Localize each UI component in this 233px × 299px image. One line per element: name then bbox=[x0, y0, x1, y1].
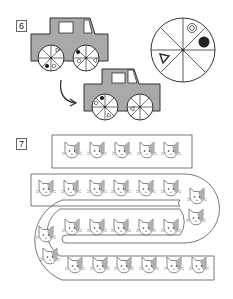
filled-circle-icon bbox=[100, 96, 104, 100]
reference-wheel bbox=[151, 18, 215, 82]
filled-circle-icon bbox=[45, 64, 49, 68]
filled-circle-icon bbox=[76, 50, 80, 54]
curved-arrow-icon bbox=[61, 80, 75, 103]
car-1 bbox=[31, 18, 108, 71]
filled-circle-icon bbox=[199, 37, 210, 48]
car-2 bbox=[84, 69, 160, 120]
puzzle-canvas bbox=[0, 0, 233, 299]
